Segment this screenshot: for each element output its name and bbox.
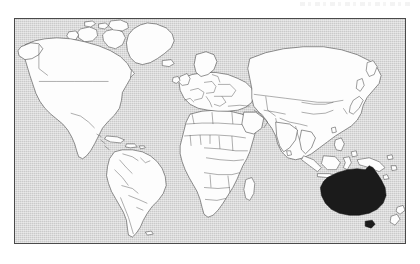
land-iceland (162, 60, 174, 67)
land-baffin-island (103, 29, 126, 49)
land-greenland (126, 23, 174, 65)
land-arabian-peninsula (242, 112, 264, 134)
land-victoria-island (78, 27, 98, 42)
world-map (15, 19, 405, 243)
land-puerto-rico (139, 146, 145, 149)
land-pacific-islet-c (383, 175, 389, 180)
land-ellesmere-island (109, 20, 129, 31)
land-australia-highlighted (320, 166, 386, 216)
border-central-america-3 (105, 146, 110, 150)
land-new-zealand-north (396, 205, 405, 214)
border-central-america-2 (101, 140, 106, 144)
land-tasmania-highlighted (365, 220, 375, 228)
land-cuba (105, 136, 125, 143)
land-arctic-islet-b (85, 21, 96, 27)
land-sri-lanka (287, 151, 292, 156)
land-philippines (334, 138, 344, 151)
land-arctic-islet-a (99, 23, 109, 29)
world-map-frame (14, 18, 406, 244)
land-halmahera (351, 151, 357, 157)
land-madagascar (244, 178, 255, 201)
land-taiwan (331, 127, 336, 133)
land-south-america (107, 150, 167, 237)
scan-artifact (300, 2, 412, 6)
land-pacific-islet-a (387, 155, 393, 160)
land-borneo (321, 156, 340, 170)
land-sulawesi (343, 157, 351, 170)
land-hispaniola (125, 144, 137, 148)
land-new-zealand-south (390, 214, 400, 225)
land-sumatra (302, 156, 322, 172)
page-root (0, 0, 420, 264)
land-pacific-islet-b (391, 166, 397, 171)
land-falkland-islands (145, 231, 153, 235)
